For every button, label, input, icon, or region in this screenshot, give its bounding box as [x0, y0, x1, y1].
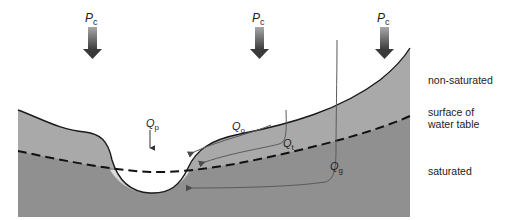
qp-label: Qp — [146, 117, 160, 132]
pc-label-3: Pc — [377, 11, 390, 27]
qo-label: Qo — [232, 120, 246, 135]
precipitation-arrow-2 — [250, 27, 269, 59]
pc-label-1: Pc — [85, 11, 98, 27]
precipitation-arrow-1 — [83, 27, 102, 59]
water-table-label-line1: surface of — [428, 106, 474, 118]
ground-cross-section — [18, 48, 410, 217]
water-table-label-line2: water table — [428, 118, 479, 130]
precipitation-arrow-3 — [375, 27, 394, 59]
pc-label-2: Pc — [252, 11, 265, 27]
non-saturated-label: non-saturated — [428, 74, 493, 86]
saturated-label: saturated — [428, 165, 472, 177]
